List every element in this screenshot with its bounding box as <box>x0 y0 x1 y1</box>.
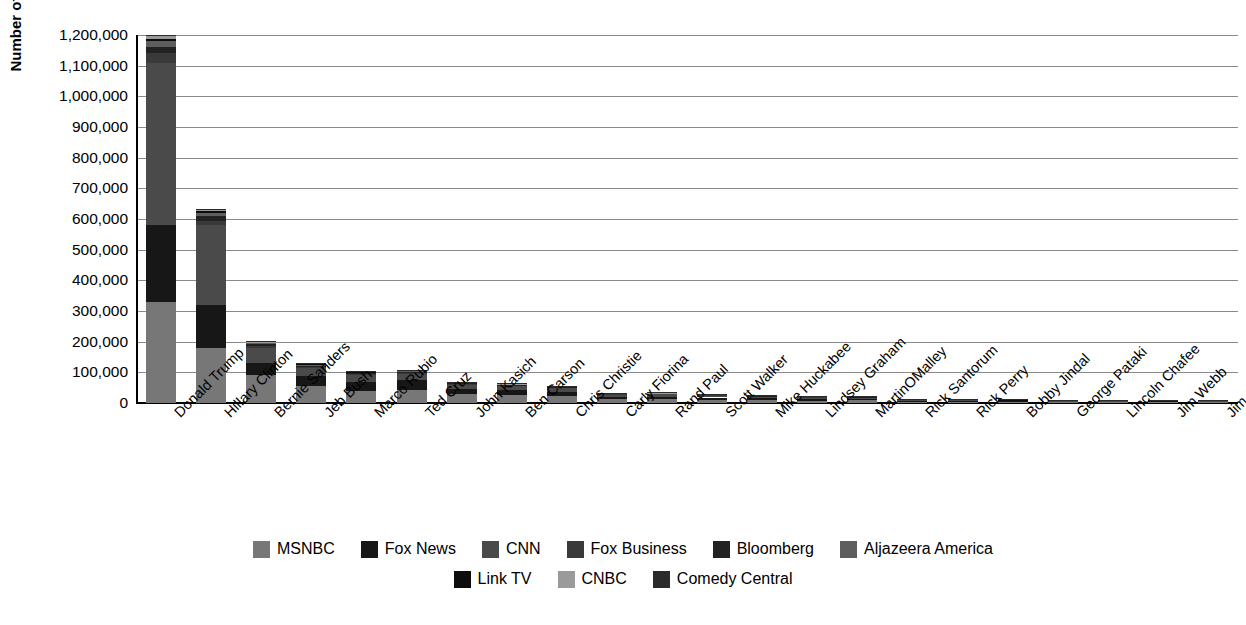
y-axis-tick-label: 500,000 <box>28 242 128 258</box>
bar-segment[interactable] <box>246 341 276 342</box>
x-axis-tick-label: Donald Trump <box>171 409 182 420</box>
x-axis-tick-label: Lindsey Graham <box>822 409 833 420</box>
y-axis-tick-label: 700,000 <box>28 180 128 196</box>
legend-label: Comedy Central <box>677 570 793 588</box>
stacked-bar-chart: Number of Mentions 1,200,0001,100,0001,0… <box>0 0 1246 625</box>
plot-area <box>136 35 1238 403</box>
x-axis-tick-label: Carly Fiorina <box>622 409 633 420</box>
bar-segment[interactable] <box>196 225 226 305</box>
legend-swatch-icon <box>253 541 270 558</box>
y-axis-tick-label: 300,000 <box>28 303 128 319</box>
legend-row: Link TVCNBCComedy Central <box>0 564 1246 594</box>
legend-swatch-icon <box>454 571 471 588</box>
bar-segment[interactable] <box>196 305 226 348</box>
bar-segment[interactable] <box>196 210 226 212</box>
x-axis-tick-label: Hillary Clinton <box>221 409 232 420</box>
legend-label: MSNBC <box>277 540 335 558</box>
x-axis-tick-label: Ben Carson <box>522 409 533 420</box>
legend-item[interactable]: Aljazeera America <box>840 540 993 558</box>
legend-item[interactable]: Bloomberg <box>713 540 814 558</box>
y-axis-tick-label: 0 <box>28 395 128 411</box>
x-axis-tick-label: Bernie Sanders <box>271 409 282 420</box>
legend-label: Fox News <box>385 540 456 558</box>
legend-label: CNBC <box>582 570 627 588</box>
legend-item[interactable]: Fox News <box>361 540 456 558</box>
legend-label: Bloomberg <box>737 540 814 558</box>
y-axis-tick-labels: 1,200,0001,100,0001,000,000900,000800,00… <box>28 0 128 410</box>
legend-label: Link TV <box>478 570 532 588</box>
bar-segment[interactable] <box>146 47 176 54</box>
bar-segment[interactable] <box>146 302 176 403</box>
bar-segment[interactable] <box>146 39 176 41</box>
legend-item[interactable]: Comedy Central <box>653 570 793 588</box>
bar-segment[interactable] <box>146 35 176 36</box>
legend-item[interactable]: MSNBC <box>253 540 335 558</box>
legend-item[interactable]: CNN <box>482 540 541 558</box>
bar-segment[interactable] <box>196 221 226 225</box>
y-axis-tick-label: 1,100,000 <box>28 58 128 74</box>
bar-segment[interactable] <box>146 36 176 39</box>
bar-segment[interactable] <box>246 344 276 346</box>
x-axis-tick-label: John Kasich <box>472 409 483 420</box>
legend-label: Fox Business <box>591 540 687 558</box>
y-axis-tick-label: 400,000 <box>28 272 128 288</box>
legend-item[interactable]: Link TV <box>454 570 532 588</box>
legend-label: CNN <box>506 540 541 558</box>
x-axis-tick-label: Mike Huckabee <box>772 409 783 420</box>
bar-segment[interactable] <box>146 225 176 302</box>
y-axis-tick-label: 1,000,000 <box>28 88 128 104</box>
chart-legend: MSNBCFox NewsCNNFox BusinessBloombergAlj… <box>0 534 1246 594</box>
bar-segment[interactable] <box>146 41 176 47</box>
bar-segment[interactable] <box>246 346 276 348</box>
legend-swatch-icon <box>482 541 499 558</box>
legend-row: MSNBCFox NewsCNNFox BusinessBloombergAlj… <box>0 534 1246 564</box>
legend-item[interactable]: Fox Business <box>567 540 687 558</box>
x-axis-tick-label: Rand Paul <box>672 409 683 420</box>
x-axis-tick-label: Jeb Bush <box>321 409 332 420</box>
legend-swatch-icon <box>713 541 730 558</box>
x-axis-tick-label: Jim Gilmore <box>1223 409 1234 420</box>
bar-segment[interactable] <box>196 216 226 222</box>
legend-label: Aljazeera America <box>864 540 993 558</box>
legend-swatch-icon <box>840 541 857 558</box>
legend-swatch-icon <box>558 571 575 588</box>
bars-layer <box>136 35 1238 403</box>
bar-segment[interactable] <box>196 211 226 213</box>
x-axis-tick-label: George Pataki <box>1073 409 1084 420</box>
x-axis-tick-label: Lincoln Chafee <box>1123 409 1134 420</box>
y-axis-tick-label: 1,200,000 <box>28 27 128 43</box>
legend-swatch-icon <box>567 541 584 558</box>
y-axis-title: Number of Mentions <box>4 0 28 119</box>
x-axis-tick-label: Rick Santorum <box>922 409 933 420</box>
x-axis-tick-label: Ted Cruz <box>422 409 433 420</box>
bar-group[interactable] <box>146 35 176 403</box>
legend-swatch-icon <box>653 571 670 588</box>
x-axis-tick-label: Marco Rubio <box>371 409 382 420</box>
x-axis-tick-labels: Donald TrumpHillary ClintonBernie Sander… <box>136 403 1238 523</box>
x-axis-tick-label: Scott Walker <box>722 409 733 420</box>
legend-item[interactable]: CNBC <box>558 570 627 588</box>
y-axis-tick-label: 100,000 <box>28 364 128 380</box>
legend-swatch-icon <box>361 541 378 558</box>
bar-segment[interactable] <box>146 63 176 226</box>
y-axis-tick-label: 800,000 <box>28 150 128 166</box>
x-axis-tick-label: Rick Perry <box>973 409 984 420</box>
x-axis-tick-label: Bobby Jindal <box>1023 409 1034 420</box>
x-axis-tick-label: Chris Christie <box>572 409 583 420</box>
bar-segment[interactable] <box>196 213 226 216</box>
x-axis-tick-label: MartinOMalley <box>872 409 883 420</box>
y-axis-tick-label: 600,000 <box>28 211 128 227</box>
x-axis-tick-label: Jim Webb <box>1173 409 1184 420</box>
bar-segment[interactable] <box>246 343 276 344</box>
bar-segment[interactable] <box>146 53 176 62</box>
y-axis-tick-label: 900,000 <box>28 119 128 135</box>
y-axis-tick-label: 200,000 <box>28 334 128 350</box>
bar-segment[interactable] <box>196 209 226 210</box>
